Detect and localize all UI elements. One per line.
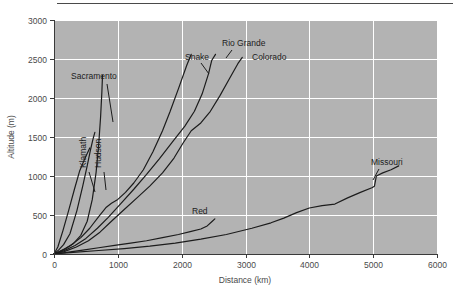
y-tick-label: 0 [42, 250, 47, 260]
x-axis-title: Distance (km) [219, 275, 272, 285]
x-tick-label: 5000 [364, 260, 383, 270]
y-tick-label: 2500 [28, 55, 47, 65]
y-axis-title: Altitude (m) [6, 115, 16, 159]
y-tick-label: 3000 [28, 16, 47, 26]
series-label-hudson: Hudson [93, 138, 103, 168]
series-label-klamath: Klamath [78, 137, 88, 168]
x-tick-label: 4000 [300, 260, 319, 270]
series-label-rio-grande: Rio Grande [222, 38, 266, 48]
series-label-sacramento: Sacramento [71, 71, 117, 81]
series-label-missouri: Missouri [371, 157, 403, 167]
y-tick-label: 1000 [28, 172, 47, 182]
river-profile-chart: 0100020003000400050006000050010001500200… [0, 0, 457, 291]
y-tick-label: 500 [33, 211, 47, 221]
x-tick-label: 2000 [173, 260, 192, 270]
y-tick-label: 2000 [28, 94, 47, 104]
x-tick-label: 0 [52, 260, 57, 270]
series-label-red: Red [192, 206, 208, 216]
series-label-snake: Snake [185, 52, 209, 62]
chart-figure: 0100020003000400050006000050010001500200… [0, 0, 457, 291]
y-tick-label: 1500 [28, 133, 47, 143]
x-tick-label: 1000 [109, 260, 128, 270]
series-label-colorado: Colorado [252, 52, 287, 62]
x-tick-label: 3000 [237, 260, 256, 270]
x-tick-label: 6000 [428, 260, 447, 270]
